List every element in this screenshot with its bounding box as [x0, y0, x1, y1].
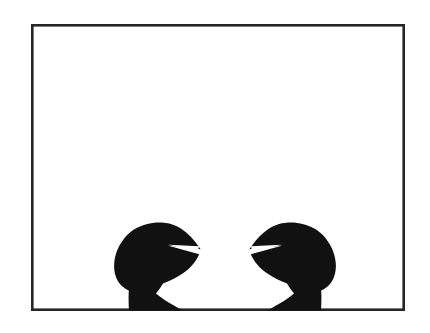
silhouette-illustration [0, 0, 430, 333]
artwork-canvas: Crab claws silhouette two black crab cla… [0, 0, 430, 333]
rectangular-border [32, 25, 403, 309]
